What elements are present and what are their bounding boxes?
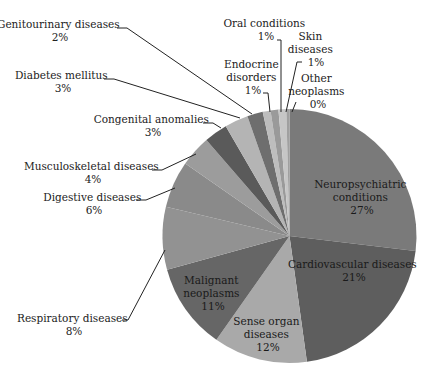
label-skin: Skin diseases 1% [288, 30, 336, 68]
label-other: Other neoplasms 0% [288, 72, 348, 110]
label-oral: Oral conditions 1% [223, 17, 308, 42]
leader-respiratory [122, 250, 165, 320]
pie-chart: Genitourinary diseases 2% Diabetes melli… [0, 0, 433, 372]
label-digestive: Digestive diseases 6% [43, 191, 144, 216]
label-endocrine: Endocrine disorders 1% [224, 58, 282, 96]
leader-endocrine [263, 93, 270, 112]
pie-slice-cardiovascular-diseases [290, 236, 416, 362]
label-congenital: Congenital anomalies 3% [94, 113, 213, 138]
label-genitourinary: Genitourinary diseases 2% [0, 18, 123, 43]
label-diabetes: Diabetes mellitus 3% [15, 69, 111, 94]
label-musculoskeletal: Musculoskeletal diseases 4% [24, 160, 162, 185]
label-respiratory: Respiratory diseases 8% [17, 312, 131, 337]
